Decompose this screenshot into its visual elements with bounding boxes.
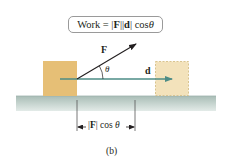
angle-arc	[99, 66, 103, 79]
figure-caption: (b)	[106, 146, 117, 156]
displacement-label: d	[145, 65, 151, 76]
force-label: F	[101, 44, 107, 55]
ground-surface	[16, 96, 216, 111]
projection-label: |F| cos θ	[88, 120, 120, 130]
angle-label: θ	[105, 64, 109, 74]
projection-theta: θ	[115, 120, 120, 130]
projection-suffix: | cos	[96, 120, 115, 130]
work-diagram	[0, 0, 226, 168]
